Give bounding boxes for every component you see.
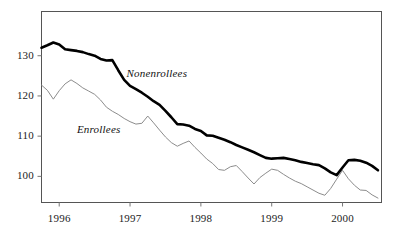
x-tick-label: 1999 bbox=[252, 213, 292, 224]
y-tick-label: 100 bbox=[8, 170, 34, 181]
series-label-nonenrollees: Nonenrollees bbox=[127, 67, 188, 79]
x-tick-label: 1998 bbox=[181, 213, 221, 224]
series-label-enrollees: Enrollees bbox=[77, 123, 121, 135]
y-tick-label: 120 bbox=[8, 90, 34, 101]
y-tick-label: 110 bbox=[8, 130, 34, 141]
y-tick-label: 130 bbox=[8, 50, 34, 61]
chart-figure: 100110120130 19961997199819992000 Nonenr… bbox=[0, 0, 397, 242]
line-chart-canvas bbox=[0, 0, 397, 242]
x-tick-label: 1996 bbox=[39, 213, 79, 224]
x-tick-label: 2000 bbox=[323, 213, 363, 224]
x-tick-label: 1997 bbox=[110, 213, 150, 224]
